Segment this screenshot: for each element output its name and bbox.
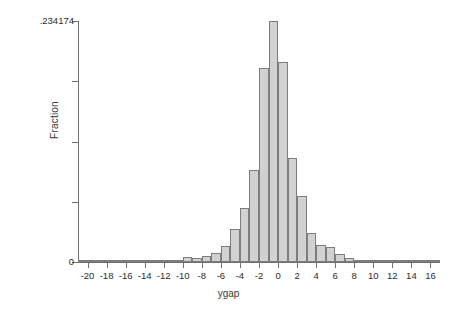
x-axis-tick [297,263,298,268]
x-axis-tick [259,263,260,268]
histogram-bar [221,246,231,262]
x-axis-tick [202,263,203,268]
histogram-bar [288,158,298,262]
x-axis-tick [354,263,355,268]
y-axis-tick [72,202,78,203]
x-axis-tick [183,263,184,268]
histogram-figure: Fraction ygap -20-18-16-14-12-10-8-6-4-2… [0,0,457,310]
histogram-bar [307,233,317,262]
histogram-bar [278,62,288,262]
x-axis-tick [164,263,165,268]
histogram-bar [297,196,307,262]
histogram-bar [269,21,279,262]
plot-area [78,21,440,262]
x-axis-tick [430,263,431,268]
y-axis-tick [72,81,78,82]
y-axis-tick-label: 0 [69,256,74,267]
histogram-bar [211,253,221,262]
histogram-bar [326,247,336,262]
x-axis-tick [335,263,336,268]
x-axis-tick-label: 16 [418,270,442,281]
y-axis-tick-label: .234174 [40,15,74,26]
x-axis-tick [240,263,241,268]
x-axis-title: ygap [0,288,457,299]
histogram-bar [240,208,250,262]
histogram-bar [259,68,269,262]
x-axis-tick [392,263,393,268]
y-axis-title: Fraction [49,75,60,165]
x-axis-tick [221,263,222,268]
x-axis-tick [411,263,412,268]
histogram-bar [316,245,326,262]
histogram-bar [249,170,259,262]
x-axis-tick [316,263,317,268]
histogram-bar [230,229,240,262]
histogram-bar [335,254,345,262]
y-axis-tick [72,142,78,143]
x-axis-tick [126,263,127,268]
x-axis-tick [145,263,146,268]
x-axis-tick [107,263,108,268]
x-axis-tick [88,263,89,268]
x-axis-tick [278,263,279,268]
x-axis-tick [373,263,374,268]
